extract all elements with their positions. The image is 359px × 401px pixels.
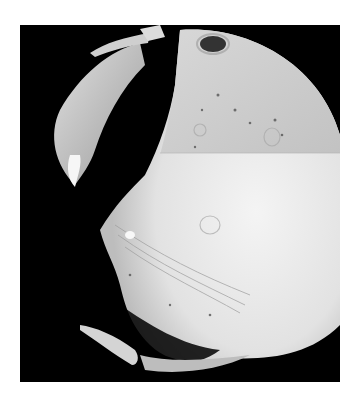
crater <box>200 36 226 52</box>
phobos-photo <box>20 25 340 382</box>
moon-upper-tile <box>160 30 340 155</box>
photo-frame <box>20 25 340 382</box>
